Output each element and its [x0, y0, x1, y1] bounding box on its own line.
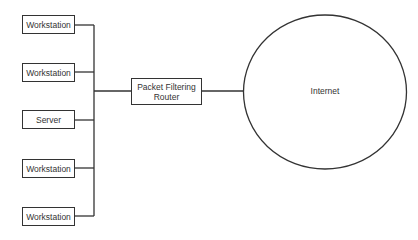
internet-label: Internet — [300, 86, 350, 96]
workstation-node: Workstation — [22, 159, 75, 178]
workstation-node: Workstation — [22, 15, 75, 34]
node-label: Server — [36, 115, 61, 125]
node-label: Workstation — [26, 68, 71, 78]
node-label: Workstation — [26, 20, 71, 30]
workstation-node: Workstation — [22, 207, 75, 226]
node-label: Workstation — [26, 212, 71, 222]
packet-filtering-router-node: Packet Filtering Router — [131, 78, 202, 105]
router-label-line1: Packet Filtering — [137, 82, 196, 92]
router-label-line2: Router — [154, 92, 180, 102]
server-node: Server — [22, 110, 75, 129]
node-label: Workstation — [26, 164, 71, 174]
workstation-node: Workstation — [22, 63, 75, 82]
